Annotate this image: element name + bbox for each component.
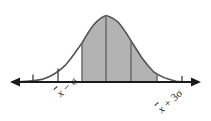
arrow-right-icon: [191, 78, 201, 87]
distribution-chart-svg: [0, 0, 211, 121]
normal-distribution-figure: x − σ x + 3σ: [0, 0, 211, 121]
arrow-left-icon: [10, 78, 20, 87]
